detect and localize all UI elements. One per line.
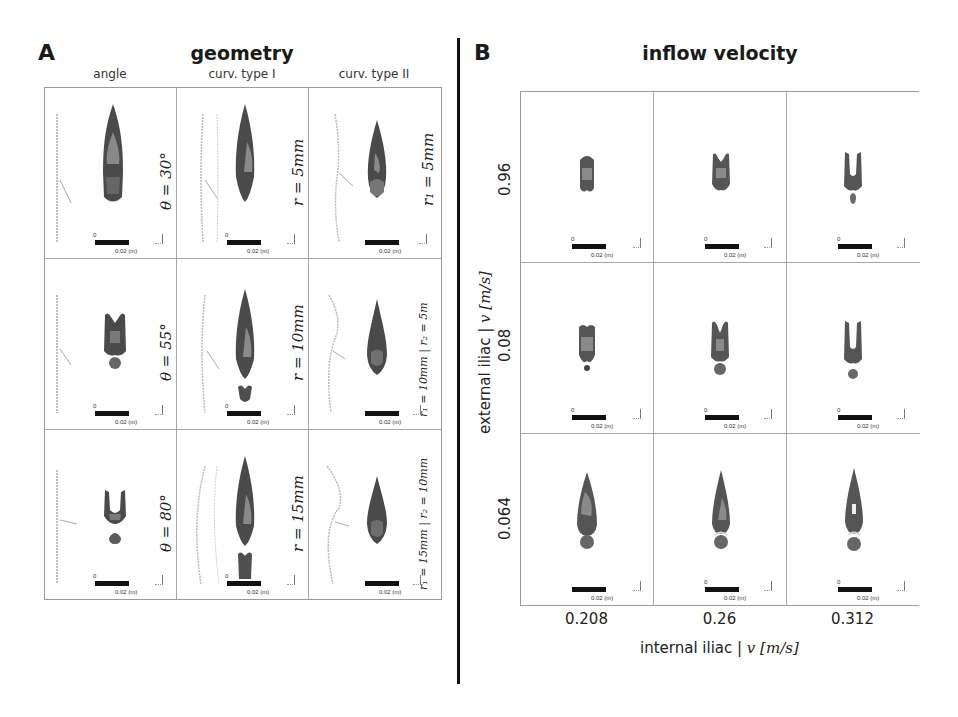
cell-ext-0.96-int-0.312: 0 0.02 (m) xyxy=(787,92,920,263)
vessel-outline xyxy=(313,460,363,590)
axes-triad-icon xyxy=(413,575,421,585)
scale-bar xyxy=(95,411,129,416)
axes-triad-icon xyxy=(287,575,295,585)
vessel-outline xyxy=(189,460,229,590)
row-value-2: 0.064 xyxy=(496,497,514,540)
scale-bar xyxy=(365,581,399,586)
cell-ext-0.064-int-0.208: 0.02 (m) xyxy=(521,434,654,605)
plume-long-cone xyxy=(708,468,734,558)
axes-triad-icon xyxy=(764,238,772,248)
cell-curv2-r1-10-r2-5: r₁ = 10mm | r₂ = 5m 0.02 (m) xyxy=(309,259,441,430)
scale-zero: 0 xyxy=(93,403,96,409)
cell-ext-0.96-int-0.208: 0 0.02 (m) xyxy=(521,92,654,263)
scale-zero: 0 xyxy=(93,232,96,238)
scale-bar xyxy=(572,244,606,249)
plume-cone-bulb xyxy=(357,118,397,208)
panel-divider xyxy=(457,38,460,684)
cell-curv1-r5: r = 5mm 0 0.02 (m) xyxy=(177,88,309,259)
angle-label: θ = 30° xyxy=(157,152,175,210)
scale-label: 0.02 (m) xyxy=(857,252,879,258)
scale-bar xyxy=(705,415,739,420)
scale-bar xyxy=(227,240,261,245)
x-axis-title-math: v [m/s] xyxy=(747,639,799,657)
plume-cone-bulb xyxy=(361,297,393,381)
radius-label: r = 5mm xyxy=(289,139,307,206)
scale-zero: 0 xyxy=(571,236,574,242)
plume-short-rounded xyxy=(575,323,599,375)
scale-zero: 0 xyxy=(837,407,840,413)
plume-split-bulb xyxy=(708,319,732,381)
panel-b-grid: 0 0.02 (m) 0 0.02 (m) 0 0.02 (m) 0 0.0 xyxy=(520,91,919,606)
plume-long-cone xyxy=(225,102,265,207)
cell-ext-0.064-int-0.26: 0 0.02 (m) xyxy=(654,434,787,605)
scale-label: 0.02 (m) xyxy=(724,252,746,258)
scale-bar xyxy=(95,581,129,586)
scale-label: 0.02 (m) xyxy=(379,589,401,595)
row-value-1: 0.08 xyxy=(496,329,514,362)
axes-triad-icon xyxy=(897,409,905,419)
plume-long-cone xyxy=(841,466,867,558)
cell-ext-0.064-int-0.312: 0 0.02 (m) xyxy=(787,434,920,605)
scale-label: 0.02 (m) xyxy=(379,419,401,425)
axes-triad-icon xyxy=(155,575,163,585)
plume-long-cone xyxy=(573,470,601,556)
scale-zero: 0 xyxy=(225,573,228,579)
col-value-2: 0.312 xyxy=(786,610,919,628)
scale-label: 0.02 (m) xyxy=(115,419,137,425)
column-header-angle: angle xyxy=(44,67,176,81)
cell-curv2-r1-15-r2-10: r₁ = 15mm | r₂ = 10mm 0.02 (m) xyxy=(309,430,441,599)
scale-label: 0.02 (m) xyxy=(247,248,269,254)
scale-label: 0.02 (m) xyxy=(115,248,137,254)
vessel-outline xyxy=(51,108,91,248)
scale-bar xyxy=(572,587,606,592)
scale-label: 0.02 (m) xyxy=(591,595,613,601)
scale-zero: 0 xyxy=(837,579,840,585)
plume-split xyxy=(710,152,732,202)
plume-long-cone xyxy=(93,102,133,207)
cell-curv1-r10: r = 10mm 0 0.02 (m) xyxy=(177,259,309,430)
y-axis-title: external iliac | v [m/s] xyxy=(476,271,494,434)
cell-angle-55: θ = 55° 0 0.02 (m) xyxy=(45,259,177,430)
axes-triad-icon xyxy=(897,238,905,248)
scale-zero: 0 xyxy=(704,579,707,585)
radius-label: r = 10mm xyxy=(289,304,307,381)
panel-b-title: inflow velocity xyxy=(620,42,820,64)
scale-bar xyxy=(705,244,739,249)
cell-curv2-r1-5: r₁ = 5mm 0.02 (m) xyxy=(309,88,441,259)
row-value-0: 0.96 xyxy=(496,163,514,196)
scale-bar xyxy=(572,415,606,420)
axes-triad-icon xyxy=(413,405,421,415)
scale-bar xyxy=(227,411,261,416)
panel-a-grid: θ = 30° 0 0.02 (m) r = 5mm 0 0.02 (m) xyxy=(44,87,442,600)
panel-a-title: geometry xyxy=(176,42,308,64)
scale-zero: 0 xyxy=(93,573,96,579)
scale-label: 0.02 (m) xyxy=(724,423,746,429)
scale-zero: 0 xyxy=(704,407,707,413)
scale-bar xyxy=(95,240,129,245)
scale-label: 0.02 (m) xyxy=(247,589,269,595)
plume-long-cone-detached xyxy=(225,287,265,407)
vessel-outline xyxy=(51,460,91,590)
x-axis-title-text: internal iliac | xyxy=(640,639,747,657)
cell-ext-0.08-int-0.26: 0 0.02 (m) xyxy=(654,263,787,434)
panel-a-letter: A xyxy=(38,40,55,65)
scale-bar xyxy=(838,244,872,249)
plume-u-split xyxy=(841,319,865,383)
scale-label: 0.02 (m) xyxy=(379,248,401,254)
axes-triad-icon xyxy=(633,238,641,248)
col-value-1: 0.26 xyxy=(653,610,786,628)
scale-label: 0.02 (m) xyxy=(247,419,269,425)
column-header-curv-type-1: curv. type I xyxy=(176,67,308,81)
cell-angle-30: θ = 30° 0 0.02 (m) xyxy=(45,88,177,259)
axes-triad-icon xyxy=(764,409,772,419)
scale-bar xyxy=(838,415,872,420)
scale-label: 0.02 (m) xyxy=(724,595,746,601)
radius-label: r₁ = 15mm | r₂ = 10mm xyxy=(417,458,430,590)
axes-triad-icon xyxy=(897,581,905,591)
scale-bar xyxy=(365,411,399,416)
scale-zero: 0 xyxy=(225,403,228,409)
x-axis-title: internal iliac | v [m/s] xyxy=(640,639,799,657)
scale-bar xyxy=(227,581,261,586)
scale-bar xyxy=(705,587,739,592)
scale-label: 0.02 (m) xyxy=(591,423,613,429)
